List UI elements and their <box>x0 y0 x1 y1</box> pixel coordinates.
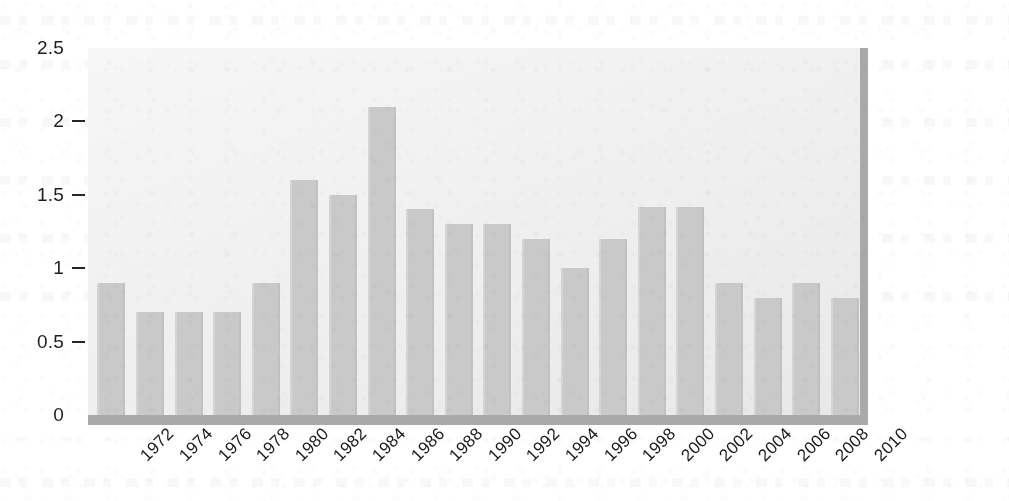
bar-1972 <box>97 283 125 415</box>
x-tick-label-1984: 1984 <box>368 424 410 466</box>
bar-2006 <box>754 298 782 415</box>
scan-ghost-text <box>0 16 1009 25</box>
y-tick-mark <box>72 47 85 49</box>
x-tick-label-1982: 1982 <box>330 424 372 466</box>
x-tick-label-2008: 2008 <box>832 424 874 466</box>
y-tick-2: 2 <box>53 111 88 131</box>
y-tick-label: 1.5 <box>37 184 64 206</box>
x-tick-label-1974: 1974 <box>175 424 217 466</box>
bar-2004 <box>715 283 743 415</box>
y-tick-0.5: 0.5 <box>37 332 88 352</box>
bar-1980 <box>252 283 280 415</box>
bar-1976 <box>175 312 203 415</box>
bar-1974 <box>136 312 164 415</box>
bar-2002 <box>676 207 704 415</box>
bar-2008 <box>792 283 820 415</box>
y-tick-1: 1 <box>53 258 88 278</box>
y-tick-mark <box>72 120 85 122</box>
x-tick-label-2002: 2002 <box>716 424 758 466</box>
x-tick-label-1972: 1972 <box>137 424 179 466</box>
y-tick-label: 2.5 <box>37 37 64 59</box>
bars-layer <box>88 48 860 415</box>
bar-1978 <box>213 312 241 415</box>
axis-baseline <box>88 415 868 425</box>
x-tick-label-1990: 1990 <box>484 424 526 466</box>
y-tick-2.5: 2.5 <box>37 38 88 58</box>
x-tick-label-2000: 2000 <box>677 424 719 466</box>
y-tick-label: 2 <box>53 110 64 132</box>
x-tick-label-2004: 2004 <box>754 424 796 466</box>
bar-1982 <box>290 180 318 415</box>
y-axis: 00.511.522.5 <box>0 0 88 501</box>
bar-1990 <box>445 224 473 415</box>
y-tick-label: 0.5 <box>37 331 64 353</box>
bar-1992 <box>483 224 511 415</box>
bar-1986 <box>368 107 396 415</box>
x-tick-label-1976: 1976 <box>214 424 256 466</box>
y-tick-label: 0 <box>53 404 64 426</box>
bar-chart-figure: x 00.511.522.5 1972197419761978198019821… <box>0 0 1009 501</box>
bar-2010 <box>831 298 859 415</box>
y-tick-0: 0 <box>53 405 88 425</box>
x-tick-label-1992: 1992 <box>523 424 565 466</box>
x-tick-label-1988: 1988 <box>446 424 488 466</box>
y-tick-mark <box>72 341 85 343</box>
x-tick-label-1998: 1998 <box>639 424 681 466</box>
bar-2000 <box>638 207 666 415</box>
bar-1994 <box>522 239 550 415</box>
x-tick-label-1978: 1978 <box>253 424 295 466</box>
y-tick-mark <box>72 267 85 269</box>
bar-1998 <box>599 239 627 415</box>
y-tick-mark <box>72 414 85 416</box>
bar-1984 <box>329 195 357 415</box>
x-tick-label-1986: 1986 <box>407 424 449 466</box>
x-tick-label-1996: 1996 <box>600 424 642 466</box>
x-tick-label-2006: 2006 <box>793 424 835 466</box>
x-tick-label-2010: 2010 <box>870 424 912 466</box>
x-tick-label-1994: 1994 <box>561 424 603 466</box>
x-axis: 1972197419761978198019821984198619881990… <box>88 424 878 494</box>
y-tick-mark <box>72 194 85 196</box>
bar-1988 <box>406 209 434 415</box>
y-tick-label: 1 <box>53 257 64 279</box>
y-tick-1.5: 1.5 <box>37 185 88 205</box>
x-tick-label-1980: 1980 <box>291 424 333 466</box>
bar-1996 <box>561 268 589 415</box>
